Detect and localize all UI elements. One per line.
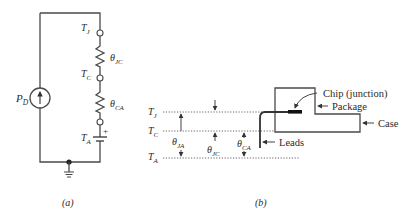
resistor-ca-icon [96, 81, 104, 119]
dim-ja-label: θJA [172, 136, 185, 150]
caption-b: (b) [255, 197, 267, 209]
caption-a: (a) [62, 197, 74, 209]
node-ta-icon [97, 119, 103, 125]
level-tc-label: TC [148, 125, 159, 139]
dim-jc-label: θJC [207, 144, 220, 158]
node-tj-icon [97, 30, 103, 36]
level-ta-label: TA [148, 151, 159, 165]
battery-plus: + [103, 126, 108, 136]
current-source-icon [30, 88, 50, 108]
package-callout-label: Package [332, 101, 367, 112]
package-diagram-b: TJ TC TA θJA θJC θCA Chip (junction) Pac… [148, 88, 399, 209]
source-label: PD [15, 92, 29, 107]
chip-icon [288, 110, 302, 114]
dim-ca-label: θCA [237, 138, 252, 152]
chip-callout-label: Chip (junction) [323, 88, 388, 100]
wire-left-bottom [40, 108, 100, 162]
case-callout-label: Case [378, 118, 399, 129]
node-tj-label: TJ [81, 22, 91, 36]
thermal-diagram: PD TJ θJC TC θCA + TA (a) [0, 0, 411, 220]
node-tc-label: TC [81, 68, 92, 82]
level-tj-label: TJ [148, 106, 158, 120]
node-tc-icon [97, 75, 103, 81]
circuit-a: PD TJ θJC TC θCA + TA (a) [15, 13, 125, 209]
chip-callout-arrow [295, 93, 317, 108]
resistor-jc-icon [96, 36, 104, 75]
resistor-ca-label: θCA [110, 98, 125, 112]
wire-top [40, 13, 100, 30]
battery-icon [93, 137, 107, 145]
resistor-jc-label: θJC [110, 52, 123, 66]
leads-callout-label: Leads [279, 137, 304, 148]
battery-label: TA [81, 132, 92, 146]
ground-icon [64, 162, 74, 177]
